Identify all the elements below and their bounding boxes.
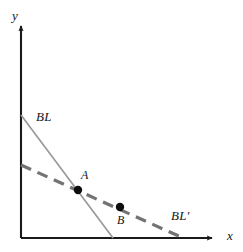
budget-line-bl [21,115,113,238]
point-b-marker [116,203,124,211]
budget-line-bl-prime [21,165,183,238]
bl-prime-line-label: BL′ [171,209,190,222]
point-a-label: A [81,169,88,181]
y-axis-label: y [12,9,18,22]
point-b-label: B [117,214,124,226]
point-a-marker [74,186,82,194]
x-axis-label: x [227,229,233,242]
bl-line-label: BL [36,110,52,123]
budget-line-diagram: y x BL BL′ A B [0,0,243,252]
